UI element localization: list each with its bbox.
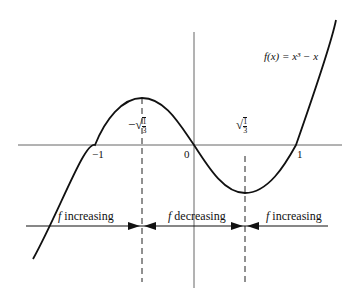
interval-label-increasing-right: f increasing — [266, 210, 322, 222]
arrowhead-icon — [128, 222, 140, 230]
arrowhead-icon — [247, 222, 259, 230]
tick-label-neg1: −1 — [92, 149, 104, 160]
tick-label-0: 0 — [184, 149, 190, 160]
interval-label-increasing-left: f increasing — [58, 210, 114, 222]
tick-label-1: 1 — [297, 149, 303, 160]
interval-label-decreasing: f decreasing — [168, 210, 226, 222]
sqrt-icon: √ — [135, 117, 142, 132]
critical-label-left: −√13 — [128, 117, 146, 135]
arrowhead-icon — [144, 222, 156, 230]
sqrt-icon: √ — [236, 117, 243, 132]
critical-label-right: √13 — [236, 117, 247, 135]
cubic-graph — [0, 0, 359, 299]
arrowhead-icon — [231, 222, 243, 230]
function-label: f(x) = x³ − x — [264, 51, 318, 62]
